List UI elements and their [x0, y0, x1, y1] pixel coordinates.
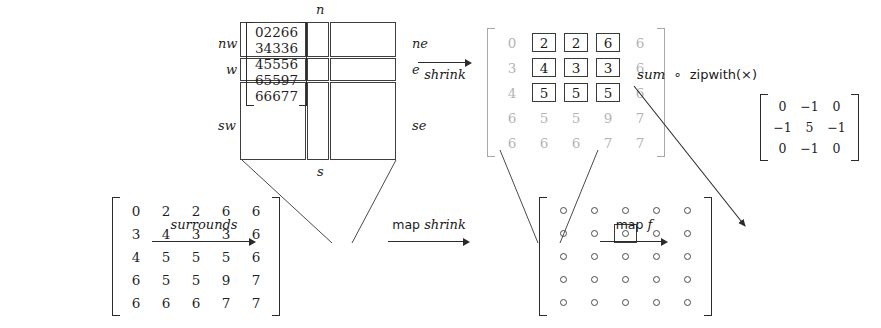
table-row: 6 5 5 9 7 — [496, 105, 656, 130]
table-row: 4 5 5 5 6 — [121, 245, 271, 268]
cell: 6 — [289, 24, 298, 40]
table-row — [548, 268, 703, 291]
cell: 5 — [272, 72, 281, 88]
grid-dot — [672, 245, 703, 268]
table-row: 3 4 3 3 6 — [496, 55, 656, 80]
group-box-n — [307, 22, 329, 57]
table-row: 0 2 2 6 6 — [496, 30, 656, 55]
cell: 5 — [528, 105, 560, 130]
grid-dot — [610, 268, 641, 291]
decomposition-matrix: 0 2 2 6 6 3 4 3 3 6 4 5 5 5 — [246, 22, 307, 106]
cell: 5 — [151, 245, 181, 268]
cell-highlighted: 2 — [560, 30, 592, 55]
cell: 6 — [255, 72, 264, 88]
table-row: −1 5 −1 — [769, 117, 850, 138]
direction-label-nw: nw — [218, 36, 238, 51]
cell: 3 — [272, 40, 281, 56]
cell: 3 — [255, 40, 264, 56]
table-row: 6 5 5 9 7 — [121, 268, 271, 291]
shrink-result-table: 0 2 2 6 6 3 4 3 3 6 4 5 5 5 — [496, 30, 656, 155]
cell: 4 — [255, 56, 264, 72]
shrink-arg: shrink — [424, 217, 466, 232]
direction-label-ne: ne — [412, 36, 428, 51]
cell: −1 — [796, 138, 823, 159]
cell-highlighted: 2 — [528, 30, 560, 55]
cell: 9 — [281, 72, 290, 88]
map-keyword: map — [616, 217, 644, 232]
cell: 0 — [823, 138, 850, 159]
arrow-shaft — [152, 237, 256, 247]
cell: 6 — [624, 30, 656, 55]
operator-sum: sum — [637, 66, 665, 82]
cell: 4 — [496, 80, 528, 105]
cell: 7 — [624, 105, 656, 130]
cell: 6 — [289, 40, 298, 56]
table-row — [548, 291, 703, 314]
cell: 9 — [211, 268, 241, 291]
cell: 6 — [560, 130, 592, 155]
cell: 6 — [121, 291, 151, 314]
arrow-shaft — [388, 237, 470, 247]
cell: 0 — [769, 96, 796, 117]
kernel-matrix-table: 0 −1 0 −1 5 −1 0 −1 0 — [769, 96, 850, 159]
decomposition-matrix-table: 0 2 2 6 6 3 4 3 3 6 4 5 5 5 — [255, 24, 298, 104]
cell: 0 — [255, 24, 264, 40]
bracket-left — [760, 94, 768, 161]
grid-dot — [610, 291, 641, 314]
cell-highlighted: 3 — [560, 55, 592, 80]
direction-label-sw: sw — [218, 118, 236, 133]
direction-label-s: s — [317, 164, 324, 179]
operator-compose-icon: ∘ — [674, 67, 682, 82]
grid-dot — [672, 222, 703, 245]
arrow-surrounds-label: surrounds — [152, 218, 256, 232]
table-row: 4 5 5 5 6 — [255, 56, 298, 72]
decomposition-diagram: nw w sw ne e se n s 0 2 2 6 — [240, 6, 301, 94]
surrounds-matrix — [539, 197, 712, 316]
table-row: 0 −1 0 — [769, 96, 850, 117]
cell: 4 — [264, 40, 273, 56]
cell: 7 — [241, 291, 271, 314]
arrow-shaft — [600, 237, 668, 247]
cone-line-left-2 — [500, 150, 538, 243]
source-matrix: 0 2 2 6 6 3 4 3 3 6 4 5 5 5 6 6 — [112, 197, 280, 316]
cell: 6 — [528, 130, 560, 155]
operator-label: sum ∘ zipwith(×) — [637, 64, 757, 83]
table-row: 6 6 6 7 7 — [121, 291, 271, 314]
bracket-left — [112, 197, 120, 316]
table-row: 6 5 5 9 7 — [255, 72, 298, 88]
table-row: 3 4 3 3 6 — [255, 40, 298, 56]
cell: 6 — [121, 268, 151, 291]
cell-highlighted: 6 — [592, 30, 624, 55]
cell: 6 — [151, 291, 181, 314]
bracket-left — [487, 28, 495, 157]
arrow-map-f: map f — [600, 218, 668, 247]
cell-highlighted: 5 — [592, 80, 624, 105]
cell: 5 — [211, 245, 241, 268]
grid-dot — [548, 245, 579, 268]
arrow-map-shrink-label: map shrink — [388, 218, 470, 232]
cell: 4 — [121, 245, 151, 268]
kernel-matrix: 0 −1 0 −1 5 −1 0 −1 0 — [760, 94, 859, 161]
cell: 5 — [264, 72, 273, 88]
f-arg: f — [648, 217, 653, 232]
cell: 5 — [264, 56, 273, 72]
grid-dot — [548, 222, 579, 245]
cell: 5 — [181, 245, 211, 268]
arrow-shaft — [418, 58, 472, 68]
bracket-left — [539, 197, 547, 316]
cell: 0 — [769, 138, 796, 159]
map-keyword: map — [392, 217, 420, 232]
cell: 6 — [241, 245, 271, 268]
bracket-right — [657, 28, 665, 157]
arrow-map-shrink: map shrink — [388, 218, 470, 247]
direction-label-n: n — [316, 2, 324, 17]
arrow-surrounds: surrounds — [152, 218, 256, 247]
cell: 3 — [496, 55, 528, 80]
grid-dot — [641, 268, 672, 291]
diagram-canvas: nw w sw ne e se n s 0 2 2 6 — [0, 0, 881, 328]
grid-dot — [641, 245, 672, 268]
table-row — [548, 245, 703, 268]
cell-highlighted: 3 — [592, 55, 624, 80]
cell: 3 — [121, 222, 151, 245]
shrink-result-matrix: 0 2 2 6 6 3 4 3 3 6 4 5 5 5 — [487, 28, 665, 157]
